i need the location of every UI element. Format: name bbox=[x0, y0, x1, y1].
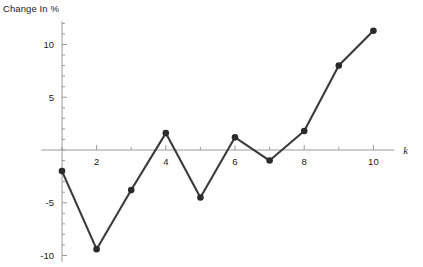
data-point-marker bbox=[301, 128, 308, 135]
line-chart-plot: -10-5510246810k bbox=[0, 0, 423, 267]
data-series-line bbox=[62, 31, 373, 249]
x-tick-label: 10 bbox=[368, 156, 379, 167]
data-point-marker bbox=[370, 27, 377, 34]
x-tick-label: 2 bbox=[94, 156, 99, 167]
y-axis bbox=[62, 21, 67, 262]
data-point-marker bbox=[128, 187, 135, 194]
x-tick-label: 8 bbox=[302, 156, 307, 167]
y-tick-label: 5 bbox=[49, 92, 54, 103]
x-tick-label: 6 bbox=[232, 156, 237, 167]
x-tick-label: 4 bbox=[163, 156, 168, 167]
y-tick-label: -10 bbox=[40, 250, 54, 261]
x-axis bbox=[41, 145, 394, 150]
data-point-marker bbox=[336, 62, 343, 69]
data-point-marker bbox=[93, 246, 100, 253]
data-point-marker bbox=[163, 130, 170, 137]
data-point-marker bbox=[232, 134, 239, 141]
chart-container: Change In % -10-5510246810k bbox=[0, 0, 423, 267]
data-point-marker bbox=[266, 157, 273, 164]
y-tick-label: -5 bbox=[46, 197, 54, 208]
data-point-marker bbox=[197, 194, 204, 201]
data-point-marker bbox=[59, 168, 66, 175]
y-tick-label: 10 bbox=[43, 39, 54, 50]
data-point-markers bbox=[59, 27, 377, 252]
x-axis-label: k bbox=[403, 145, 408, 156]
